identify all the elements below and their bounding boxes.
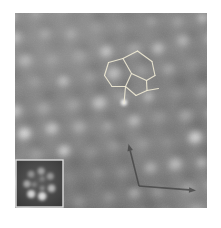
- figure-page: [0, 0, 221, 228]
- inset-lobe: [40, 186, 45, 191]
- inset-lobe: [38, 192, 46, 200]
- inset-lobe: [38, 168, 45, 175]
- inset-frame: [16, 160, 63, 207]
- stm-figure: [0, 0, 221, 228]
- inset-lobe: [47, 173, 54, 180]
- single-molecule-inset: [16, 160, 63, 207]
- inset-lobe: [23, 180, 30, 187]
- inset-lobe: [48, 185, 56, 193]
- molecule-bond: [147, 81, 148, 91]
- inset-lobe: [28, 171, 35, 178]
- inset-lobe: [31, 182, 36, 187]
- inset-lobe: [27, 190, 35, 198]
- inset-lobe: [40, 176, 45, 181]
